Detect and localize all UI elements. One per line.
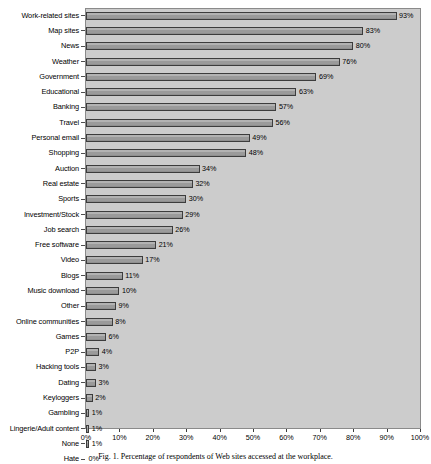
y-axis-tick: [81, 46, 85, 47]
bar: [86, 256, 143, 264]
bar: [86, 134, 250, 142]
bar: [86, 409, 89, 417]
x-axis-tick-label: 40%: [212, 433, 226, 442]
bar-row: Gambling1%: [0, 406, 431, 421]
bar-container: 69%: [86, 69, 421, 84]
bar-row: Government69%: [0, 69, 431, 84]
bar-row: Hacking tools3%: [0, 360, 431, 375]
bar-container: 29%: [86, 207, 421, 222]
bar: [86, 103, 276, 111]
category-label: Investment/Stock: [0, 211, 79, 219]
bar-value-label: 93%: [399, 12, 413, 20]
y-axis-tick: [81, 260, 85, 261]
y-axis-tick: [81, 367, 85, 368]
bar-container: 32%: [86, 176, 421, 191]
category-label: Auction: [0, 165, 79, 173]
bar: [86, 195, 186, 203]
bar-value-label: 57%: [279, 103, 293, 111]
bar-row: Dating3%: [0, 375, 431, 390]
category-label: Music download: [0, 287, 79, 295]
bar: [86, 302, 116, 310]
bar-value-label: 8%: [115, 318, 125, 326]
category-label: Lingerie/Adult content: [0, 425, 79, 433]
x-axis-tick-label: 60%: [279, 433, 293, 442]
y-axis-tick: [81, 306, 85, 307]
bar: [86, 241, 156, 249]
category-label: Real estate: [0, 180, 79, 188]
bar-value-label: 69%: [319, 73, 333, 81]
category-label: Educational: [0, 88, 79, 96]
bar-row: Map sites83%: [0, 23, 431, 38]
y-axis-tick: [81, 107, 85, 108]
category-label: Map sites: [0, 27, 79, 35]
bar-row: Free software21%: [0, 237, 431, 252]
category-label: Video: [0, 256, 79, 264]
category-label: Other: [0, 302, 79, 310]
y-axis-tick: [81, 398, 85, 399]
bar-row: Music download10%: [0, 283, 431, 298]
category-label: Gambling: [0, 409, 79, 417]
bar: [86, 379, 96, 387]
bar-container: 76%: [86, 54, 421, 69]
category-label: Personal email: [0, 134, 79, 142]
figure: Work-related sites93%Map sites83%News80%…: [0, 0, 431, 464]
x-axis-tick: [387, 429, 388, 432]
bar-value-label: 63%: [299, 88, 313, 96]
category-label: Government: [0, 73, 79, 81]
x-axis-tick: [253, 429, 254, 432]
bar-row: Investment/Stock29%: [0, 207, 431, 222]
bar-value-label: 3%: [99, 379, 109, 387]
bar: [86, 272, 123, 280]
bar-row: Real estate32%: [0, 176, 431, 191]
bar-container: 80%: [86, 39, 421, 54]
category-label: Blogs: [0, 272, 79, 280]
bar-row: P2P4%: [0, 345, 431, 360]
category-label: Banking: [0, 103, 79, 111]
category-label: Weather: [0, 58, 79, 66]
bar-container: 26%: [86, 222, 421, 237]
bar-container: 93%: [86, 8, 421, 23]
bar-container: 3%: [86, 360, 421, 375]
bar-row: Auction34%: [0, 161, 431, 176]
bar: [86, 318, 113, 326]
bar-row: Travel56%: [0, 115, 431, 130]
bar-value-label: 6%: [109, 333, 119, 341]
bar-container: 9%: [86, 299, 421, 314]
y-axis-tick: [81, 15, 85, 16]
x-axis-tick: [86, 429, 87, 432]
x-axis-tick-label: 100%: [411, 433, 429, 442]
bar: [86, 119, 273, 127]
bar-value-label: 56%: [276, 119, 290, 127]
bar-value-label: 32%: [195, 180, 209, 188]
bar-row: Educational63%: [0, 84, 431, 99]
y-axis-tick: [81, 92, 85, 93]
bar: [86, 394, 93, 402]
bar-value-label: 3%: [99, 363, 109, 371]
bar-row: Banking57%: [0, 100, 431, 115]
bar-value-label: 11%: [125, 272, 139, 280]
y-axis-tick: [81, 122, 85, 123]
bar-row: Sports30%: [0, 192, 431, 207]
bar-value-label: 83%: [366, 27, 380, 35]
x-axis-tick: [119, 429, 120, 432]
category-label: News: [0, 42, 79, 50]
bar-row: Weather76%: [0, 54, 431, 69]
y-axis-tick: [81, 30, 85, 31]
x-axis-tick-label: 70%: [313, 433, 327, 442]
bar: [86, 363, 96, 371]
bar-value-label: 34%: [202, 165, 216, 173]
bar-container: 8%: [86, 314, 421, 329]
figure-caption: Fig. 1. Percentage of respondents of Web…: [0, 452, 431, 464]
category-label: Work-related sites: [0, 12, 79, 20]
bar-value-label: 80%: [356, 42, 370, 50]
bar-container: 34%: [86, 161, 421, 176]
bar-value-label: 17%: [145, 256, 159, 264]
x-axis-tick-label: 80%: [346, 433, 360, 442]
y-axis-tick: [81, 245, 85, 246]
bar-value-label: 76%: [342, 58, 356, 66]
bar-container: 83%: [86, 23, 421, 38]
category-label: Online communities: [0, 318, 79, 326]
y-axis-tick: [81, 382, 85, 383]
category-label: Shopping: [0, 149, 79, 157]
category-label: P2P: [0, 348, 79, 356]
